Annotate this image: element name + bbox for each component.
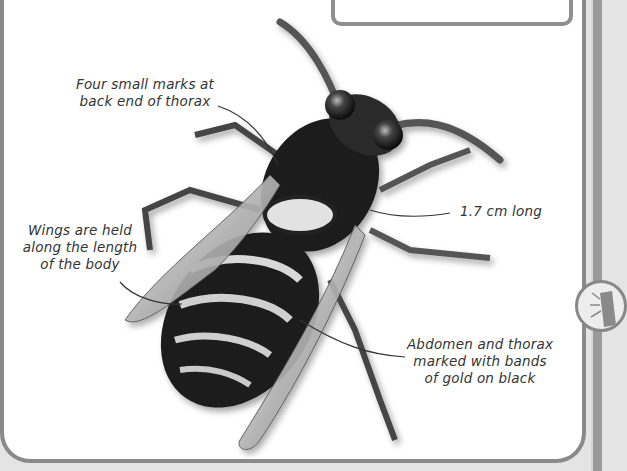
label-line: back end of thorax <box>70 93 220 110</box>
label-length: 1.7 cm long <box>460 203 550 220</box>
label-line: marked with bands <box>405 353 555 370</box>
label-line: along the length <box>20 239 140 256</box>
label-line: of gold on black <box>405 370 555 387</box>
label-wings: Wings are held along the length of the b… <box>20 222 140 273</box>
label-line: of the body <box>20 256 140 273</box>
label-thorax-marks: Four small marks at back end of thorax <box>70 76 220 110</box>
label-line: Four small marks at <box>70 76 220 93</box>
label-line: Abdomen and thorax <box>405 336 555 353</box>
label-line: Wings are held <box>20 222 140 239</box>
label-line: 1.7 cm long <box>460 203 550 220</box>
label-abdomen: Abdomen and thorax marked with bands of … <box>405 336 555 387</box>
